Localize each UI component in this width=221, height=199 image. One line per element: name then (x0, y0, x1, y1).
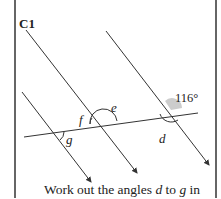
angle-g-label: g (66, 133, 73, 146)
angle-e-label: e (111, 101, 117, 114)
question-caption: Work out the angles d to g in (44, 182, 200, 198)
parallel-line-2 (26, 30, 137, 173)
angle-g-arc (60, 132, 64, 140)
given-angle-label: 116° (175, 92, 198, 105)
angle-d-label: d (159, 132, 166, 145)
transversal-line (24, 113, 198, 137)
question-number: C1 (19, 17, 35, 30)
caption-text-1: Work out the angles (44, 182, 155, 197)
parallel-line-1 (22, 92, 91, 182)
angle-f-label: f (79, 113, 83, 126)
caption-text-3: in (186, 182, 200, 197)
caption-text-2: to (162, 182, 179, 197)
